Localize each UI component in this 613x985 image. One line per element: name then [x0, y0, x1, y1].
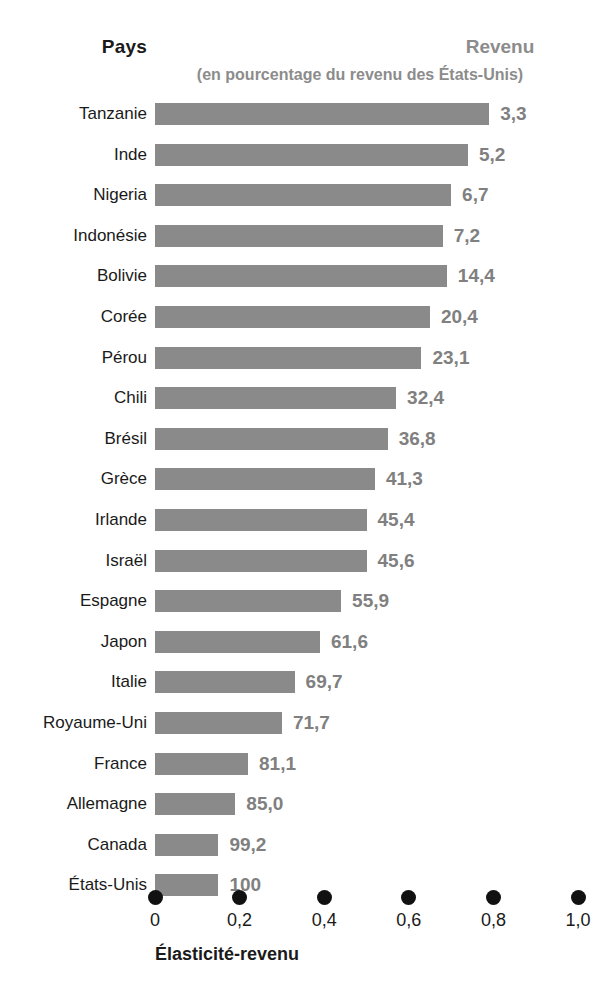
bar: [155, 225, 443, 247]
bar: [155, 834, 218, 856]
column-header-pays: Pays: [0, 36, 147, 58]
bar: [155, 753, 248, 775]
country-label: Indonésie: [0, 221, 147, 251]
country-label: Israël: [0, 546, 147, 576]
value-label: 71,7: [293, 708, 330, 738]
bar: [155, 874, 218, 896]
table-row: Espagne55,9: [0, 586, 613, 616]
bar: [155, 793, 235, 815]
axis-tick-dot: [486, 890, 501, 905]
table-row: Chili32,4: [0, 383, 613, 413]
country-label: Irlande: [0, 505, 147, 535]
column-header-subtitle: (en pourcentage du revenu des États-Unis…: [120, 66, 600, 84]
axis-tick-label: 0,8: [463, 910, 523, 931]
table-row: Tanzanie3,3: [0, 99, 613, 129]
value-label: 5,2: [479, 140, 505, 170]
country-label: Royaume-Uni: [0, 708, 147, 738]
table-row: Grèce41,3: [0, 464, 613, 494]
table-row: États-Unis100: [0, 870, 613, 900]
value-label: 20,4: [441, 302, 478, 332]
country-label: Bolivie: [0, 261, 147, 291]
income-elasticity-bar-chart: Pays Revenu (en pourcentage du revenu de…: [0, 0, 613, 985]
value-label: 45,6: [378, 546, 415, 576]
table-row: France81,1: [0, 749, 613, 779]
value-label: 14,4: [458, 261, 495, 291]
axis-tick-label: 0,4: [294, 910, 354, 931]
axis-tick-label: 0,6: [379, 910, 439, 931]
table-row: Allemagne85,0: [0, 789, 613, 819]
country-label: Inde: [0, 140, 147, 170]
axis-tick-dot: [317, 890, 332, 905]
country-label: Canada: [0, 830, 147, 860]
bar: [155, 550, 367, 572]
country-label: Brésil: [0, 424, 147, 454]
country-label: Corée: [0, 302, 147, 332]
axis-tick-dot: [232, 890, 247, 905]
value-label: 99,2: [229, 830, 266, 860]
value-label: 6,7: [462, 180, 488, 210]
country-label: Grèce: [0, 464, 147, 494]
table-row: Inde5,2: [0, 140, 613, 170]
value-label: 85,0: [246, 789, 283, 819]
country-label: France: [0, 749, 147, 779]
table-row: Pérou23,1: [0, 343, 613, 373]
axis-tick-label: 0: [125, 910, 185, 931]
value-label: 45,4: [378, 505, 415, 535]
bar: [155, 184, 451, 206]
table-row: Brésil36,8: [0, 424, 613, 454]
value-label: 81,1: [259, 749, 296, 779]
table-row: Japon61,6: [0, 627, 613, 657]
country-label: Espagne: [0, 586, 147, 616]
bar: [155, 468, 375, 490]
bar: [155, 671, 295, 693]
axis-tick-label: 1,0: [548, 910, 608, 931]
value-label: 7,2: [454, 221, 480, 251]
country-label: États-Unis: [0, 870, 147, 900]
value-label: 32,4: [407, 383, 444, 413]
bar: [155, 347, 421, 369]
column-header-revenu: Revenu: [410, 36, 590, 58]
table-row: Nigeria6,7: [0, 180, 613, 210]
table-row: Italie69,7: [0, 667, 613, 697]
bar: [155, 428, 388, 450]
country-label: Italie: [0, 667, 147, 697]
bar: [155, 306, 430, 328]
bar: [155, 590, 341, 612]
bar: [155, 509, 367, 531]
country-label: Nigeria: [0, 180, 147, 210]
axis-tick-dot: [401, 890, 416, 905]
bar: [155, 712, 282, 734]
bar: [155, 144, 468, 166]
value-label: 55,9: [352, 586, 389, 616]
table-row: Indonésie7,2: [0, 221, 613, 251]
country-label: Tanzanie: [0, 99, 147, 129]
table-row: Corée20,4: [0, 302, 613, 332]
value-label: 36,8: [399, 424, 436, 454]
country-label: Allemagne: [0, 789, 147, 819]
value-label: 41,3: [386, 464, 423, 494]
axis-tick-dot: [148, 890, 163, 905]
table-row: Israël45,6: [0, 546, 613, 576]
bar: [155, 103, 489, 125]
axis-title: Élasticité-revenu: [155, 944, 299, 965]
bar: [155, 631, 320, 653]
axis-tick-dot: [571, 890, 586, 905]
bar: [155, 265, 447, 287]
country-label: Chili: [0, 383, 147, 413]
value-label: 23,1: [432, 343, 469, 373]
table-row: Canada99,2: [0, 830, 613, 860]
value-label: 69,7: [306, 667, 343, 697]
country-label: Pérou: [0, 343, 147, 373]
table-row: Royaume-Uni71,7: [0, 708, 613, 738]
country-label: Japon: [0, 627, 147, 657]
table-row: Irlande45,4: [0, 505, 613, 535]
value-label: 3,3: [500, 99, 526, 129]
axis-tick-label: 0,2: [210, 910, 270, 931]
value-label: 61,6: [331, 627, 368, 657]
bar: [155, 387, 396, 409]
table-row: Bolivie14,4: [0, 261, 613, 291]
